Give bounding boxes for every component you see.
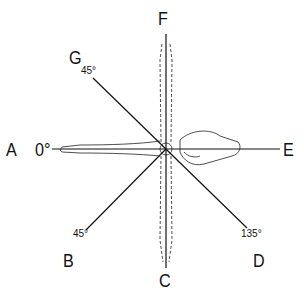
label-f: F	[158, 9, 168, 28]
label-e: E	[283, 140, 294, 159]
angle-d: 135°	[241, 229, 262, 239]
angle-g: 45°	[81, 66, 96, 76]
label-d: D	[253, 251, 265, 270]
axis-b	[86, 149, 166, 230]
angle-a: 0°	[35, 140, 50, 159]
body-figure	[60, 131, 240, 165]
label-a: A	[6, 140, 17, 159]
shoulder-range-of-motion-diagram: F G 45° A 0° E 45° 135° B D C	[0, 0, 304, 297]
label-c: C	[159, 271, 171, 290]
label-b: B	[63, 251, 74, 270]
label-g: G	[69, 48, 82, 67]
angle-b: 45°	[73, 229, 88, 239]
